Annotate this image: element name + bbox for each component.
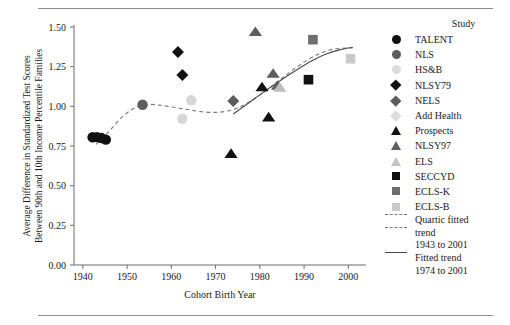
data-point-talent: [101, 134, 111, 144]
y-axis-title-line-2: Between 90th and 10th Income Percentile …: [34, 49, 44, 243]
legend-label: HS&B: [409, 64, 442, 75]
legend-label: ECLS-B: [409, 201, 449, 212]
legend-entry-ecls-k: ECLS-K: [383, 184, 510, 199]
legend-entry-ecls-b: ECLS-B: [383, 199, 510, 214]
trend-line-solid: [233, 47, 352, 114]
square-marker-icon: [383, 187, 409, 195]
data-point-prospects: [262, 112, 275, 122]
circle-marker-icon: [383, 50, 409, 59]
y-axis-tick-label: 0.25: [49, 220, 67, 231]
legend-entry-talent: TALENT: [383, 32, 510, 47]
legend-entry-quartic-trend: Quartic fitted: [383, 214, 510, 227]
data-point-hs-b: [177, 114, 187, 124]
legend-label: SECCYD: [409, 171, 454, 182]
scatter-plot-svg: 0.000.250.500.751.001.251.50194019501960…: [0, 0, 370, 300]
legend-label-quartic-line2: trend: [409, 227, 436, 240]
legend-entry-nlsy97: NLSY97: [383, 138, 510, 153]
square-marker-icon: [383, 172, 409, 180]
legend-label-quartic-line1: Quartic fitted: [409, 214, 469, 227]
dashed-line-icon-repeat: [383, 227, 409, 228]
data-point-ecls-b: [346, 54, 356, 64]
y-axis-tick-label: 1.50: [49, 22, 67, 33]
data-point-nlsy97: [249, 27, 262, 37]
data-point-seccyd: [304, 75, 314, 85]
legend-label: NLSY79: [409, 80, 451, 91]
legend-label-quartic-line3: 1943 to 2001: [409, 239, 468, 252]
legend-entry-els: ELS: [383, 154, 510, 169]
legend-entry-add-health: Add Health: [383, 108, 510, 123]
legend-label: NLSY97: [409, 140, 451, 151]
diamond-marker-icon: [383, 81, 409, 89]
data-point-ecls-k: [308, 35, 318, 45]
y-axis-tick-label: 1.25: [49, 61, 67, 72]
legend: Study TALENTNLSHS&BNLSY79NELSAdd HealthP…: [383, 18, 510, 277]
legend-label: Prospects: [409, 125, 453, 136]
legend-label: NLS: [409, 49, 434, 60]
figure-root: 0.000.250.500.751.001.251.50194019501960…: [0, 0, 510, 325]
data-point-prospects: [255, 82, 268, 92]
data-point-prospects: [224, 148, 237, 158]
data-point-hs-b: [186, 95, 196, 105]
circle-marker-icon: [383, 65, 409, 74]
legend-title: Study: [417, 18, 510, 29]
legend-label-fitted-line1: Fitted trend: [409, 252, 461, 265]
axis-lines: [74, 25, 366, 265]
legend-label: ECLS-K: [409, 186, 450, 197]
y-axis-tick-label: 0.75: [49, 141, 67, 152]
legend-label: ELS: [409, 156, 433, 167]
legend-label: NELS: [409, 95, 440, 106]
x-axis-tick-label: 1980: [250, 271, 270, 282]
legend-entry-fitted-trend: Fitted trend: [383, 252, 510, 265]
x-axis-tick-label: 1990: [294, 271, 314, 282]
x-axis-title: Cohort Birth Year: [184, 289, 256, 300]
x-axis-tick-label: 1950: [117, 271, 137, 282]
legend-label: TALENT: [409, 34, 453, 45]
legend-entry-quartic-trend-line2: trend: [383, 227, 510, 240]
data-point-nels: [227, 95, 239, 107]
square-marker-icon: [383, 203, 409, 211]
triangle-marker-icon: [383, 157, 409, 166]
bottom-divider-rule: [38, 315, 493, 316]
legend-label: Add Health: [409, 110, 461, 121]
legend-entry-seccyd: SECCYD: [383, 169, 510, 184]
data-point-nlsy97: [266, 68, 279, 78]
data-point-nls: [137, 100, 147, 110]
data-point-nlsy79: [176, 69, 188, 81]
y-axis-tick-label: 1.00: [49, 101, 67, 112]
x-axis-tick-label: 1970: [206, 271, 226, 282]
legend-entry-nlsy79: NLSY79: [383, 78, 510, 93]
data-point-nlsy79: [172, 46, 184, 58]
legend-label-fitted-line2: 1974 to 2001: [409, 265, 468, 278]
diamond-marker-icon: [383, 97, 409, 105]
legend-entry-fitted-trend-line2: 1974 to 2001: [383, 265, 510, 278]
legend-entry-prospects: Prospects: [383, 123, 510, 138]
x-axis-tick-label: 1960: [161, 271, 181, 282]
y-axis-tick-label: 0.50: [49, 180, 67, 191]
circle-marker-icon: [383, 35, 409, 44]
triangle-marker-icon: [383, 141, 409, 150]
x-axis-tick-label: 1940: [73, 271, 93, 282]
diamond-marker-icon: [383, 112, 409, 120]
trend-line-dashed: [96, 48, 353, 144]
legend-entry-list: TALENTNLSHS&BNLSY79NELSAdd HealthProspec…: [383, 32, 510, 214]
legend-entry-quartic-trend-line3: 1943 to 2001: [383, 239, 510, 252]
legend-entry-nls: NLS: [383, 47, 510, 62]
triangle-marker-icon: [383, 126, 409, 135]
legend-entry-nels: NELS: [383, 93, 510, 108]
legend-entry-hs-b: HS&B: [383, 62, 510, 77]
y-axis-title-line-1: Average Difference in Standardized Test …: [22, 55, 32, 237]
plot-area: 0.000.250.500.751.001.251.50194019501960…: [0, 0, 370, 300]
y-axis-tick-label: 0.00: [49, 260, 67, 271]
solid-line-icon: [383, 252, 409, 253]
dashed-line-icon: [383, 214, 409, 215]
x-axis-tick-label: 2000: [338, 271, 358, 282]
